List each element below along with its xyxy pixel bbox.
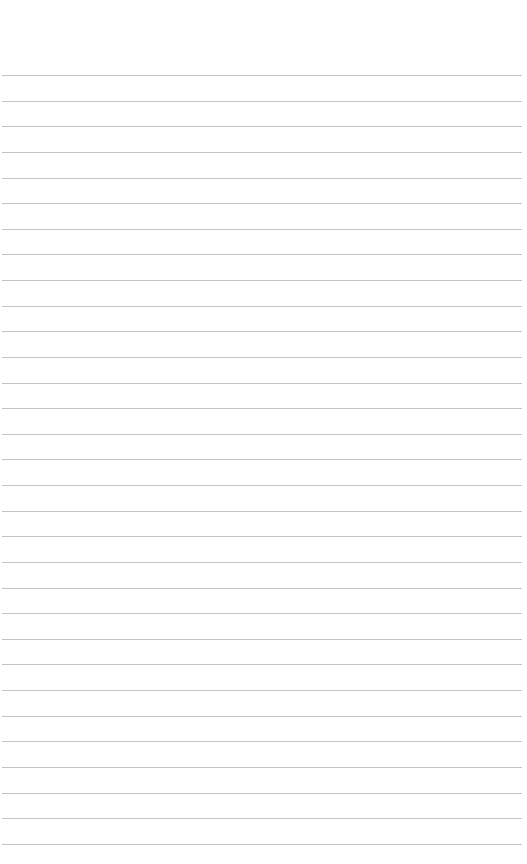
ruled-line: [2, 203, 522, 204]
ruled-line: [2, 178, 522, 179]
ruled-line: [2, 639, 522, 640]
ruled-line: [2, 254, 522, 255]
ruled-line: [2, 664, 522, 665]
ruled-line: [2, 459, 522, 460]
ruled-line: [2, 588, 522, 589]
ruled-line: [2, 844, 522, 845]
ruled-line: [2, 152, 522, 153]
ruled-line: [2, 690, 522, 691]
ruled-line: [2, 383, 522, 384]
ruled-line: [2, 280, 522, 281]
ruled-line: [2, 767, 522, 768]
ruled-line: [2, 485, 522, 486]
lined-paper-page: [0, 0, 527, 864]
ruled-line: [2, 716, 522, 717]
ruled-line: [2, 562, 522, 563]
ruled-line: [2, 818, 522, 819]
ruled-line: [2, 793, 522, 794]
ruled-line: [2, 613, 522, 614]
ruled-line: [2, 357, 522, 358]
ruled-line: [2, 306, 522, 307]
ruled-line: [2, 101, 522, 102]
ruled-line: [2, 408, 522, 409]
ruled-line: [2, 75, 522, 76]
ruled-line: [2, 229, 522, 230]
ruled-line: [2, 536, 522, 537]
ruled-line: [2, 511, 522, 512]
ruled-line: [2, 126, 522, 127]
ruled-line: [2, 741, 522, 742]
ruled-line: [2, 331, 522, 332]
ruled-line: [2, 434, 522, 435]
